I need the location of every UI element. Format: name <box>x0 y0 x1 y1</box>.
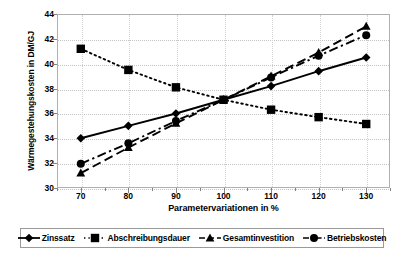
data-point-marker <box>362 120 370 128</box>
y-axis-tick-label: 40 <box>32 59 54 69</box>
x-axis-tick-mark <box>247 188 248 191</box>
data-point-marker <box>124 122 133 131</box>
y-axis-tick-mark <box>53 39 57 40</box>
x-axis-tick-mark <box>271 188 272 193</box>
series-abschreibungsdauer <box>77 45 371 129</box>
x-axis-tick-mark <box>366 188 367 193</box>
y-axis-tick-mark <box>53 138 57 139</box>
data-point-marker <box>172 117 180 125</box>
data-point-marker <box>362 31 370 39</box>
y-axis-tick-label: 36 <box>32 108 54 118</box>
y-axis-tick-labels: 4442403836343230 <box>28 14 54 188</box>
data-point-marker <box>362 22 371 30</box>
chart-legend: ZinssatzAbschreibungsdauerGesamtinvestit… <box>20 228 384 248</box>
x-axis-tick-mark <box>176 188 177 193</box>
y-axis-tick-mark <box>53 89 57 90</box>
data-point-marker <box>124 66 132 74</box>
x-axis-tick-mark <box>342 188 343 191</box>
x-axis-tick-mark <box>295 188 296 191</box>
data-point-marker <box>314 113 322 121</box>
x-axis-tick-mark <box>224 188 225 193</box>
data-point-marker <box>172 109 181 118</box>
legend-label: Betriebskosten <box>327 233 386 243</box>
y-axis-tick-mark <box>53 113 57 114</box>
x-axis-tick-mark <box>105 188 106 191</box>
data-point-marker <box>124 139 132 147</box>
series-betriebskosten <box>77 31 370 168</box>
y-axis-tick-label: 32 <box>32 158 54 168</box>
legend-key-square-icon <box>84 232 106 244</box>
y-axis-tick-mark <box>53 64 57 65</box>
x-axis-tick-mark <box>81 188 82 193</box>
data-point-marker <box>315 52 323 60</box>
y-axis-tick-mark <box>53 14 57 15</box>
y-axis-tick-label: 34 <box>32 133 54 143</box>
legend-item[interactable]: Abschreibungsdauer <box>84 232 190 244</box>
y-axis-tick-label: 42 <box>32 34 54 44</box>
legend-key-diamond-icon <box>18 232 40 244</box>
legend-key-circle-icon <box>303 232 325 244</box>
data-point-marker <box>362 53 371 62</box>
series-layer <box>57 14 390 188</box>
legend-label: Gesamtinvestition <box>223 233 294 243</box>
x-axis-tick-mark <box>57 188 58 191</box>
data-point-marker <box>267 73 275 81</box>
legend-label: Zinssatz <box>42 233 75 243</box>
legend-label: Abschreibungsdauer <box>108 233 190 243</box>
x-axis-tick-mark <box>390 188 391 191</box>
legend-key-triangle-icon <box>199 232 221 244</box>
data-point-marker <box>267 106 275 114</box>
x-axis-tick-mark <box>152 188 153 191</box>
data-point-marker <box>76 134 85 143</box>
data-point-marker <box>267 82 276 91</box>
y-axis-tick-label: 44 <box>32 9 54 19</box>
data-point-marker <box>314 67 323 76</box>
x-axis-tick-mark <box>128 188 129 193</box>
data-point-marker <box>77 160 85 168</box>
data-point-marker <box>172 83 180 91</box>
x-axis-tick-mark <box>319 188 320 193</box>
legend-item[interactable]: Zinssatz <box>18 232 75 244</box>
data-point-marker <box>77 45 85 53</box>
x-axis-tick-mark <box>200 188 201 191</box>
chart-container: Wärmegestehungskosten in DM/GJ 444240383… <box>0 0 404 256</box>
y-axis-tick-label: 38 <box>32 84 54 94</box>
legend-item[interactable]: Gesamtinvestition <box>199 232 294 244</box>
x-axis-title: Parametervariationen in % <box>57 203 390 213</box>
data-point-marker <box>220 96 228 104</box>
series-line <box>81 49 366 124</box>
y-axis-tick-label: 30 <box>32 183 54 193</box>
y-axis-tick-mark <box>53 163 57 164</box>
legend-item[interactable]: Betriebskosten <box>303 232 386 244</box>
